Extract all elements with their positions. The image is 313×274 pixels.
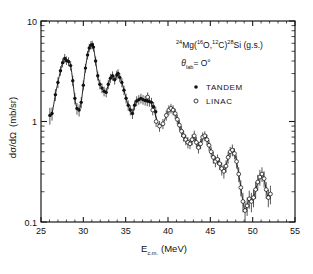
x-tick-label: 35 [121, 226, 131, 236]
data-point-open [222, 169, 226, 173]
data-point-open [262, 177, 266, 181]
x-tick-label: 30 [78, 226, 88, 236]
data-point-filled [54, 93, 57, 96]
angle-annotation: θlab= O° [181, 58, 210, 70]
data-point-filled [82, 83, 85, 86]
data-point-filled [100, 86, 103, 89]
data-point-filled [67, 60, 70, 63]
data-point-open [173, 112, 177, 116]
data-point-open [209, 150, 213, 154]
data-point-open [207, 143, 211, 147]
data-point-filled [122, 88, 125, 91]
data-point-open [243, 209, 247, 213]
data-point-open [192, 134, 196, 138]
data-point-filled [69, 64, 72, 67]
x-tick-label: 40 [163, 226, 173, 236]
legend-label-tandem: TANDEM [206, 83, 243, 92]
data-point-filled [124, 97, 127, 100]
data-point-open [254, 188, 258, 192]
data-point-filled [111, 74, 114, 77]
data-point-open [239, 186, 243, 190]
data-point-open [154, 120, 158, 124]
data-point-open [180, 129, 184, 133]
figure-panel: 253035404550550.1110Ec.m.(MeV)dσ/dΩ(mb/s… [0, 0, 313, 274]
series-tandem [48, 41, 157, 125]
data-point-open [182, 134, 186, 138]
data-point-open [233, 152, 237, 156]
data-point-filled [80, 101, 83, 104]
data-point-filled [131, 112, 134, 115]
data-point-open [194, 140, 198, 144]
reaction-annotation: 24Mg(16O,12C)28Si (g.s.) [176, 39, 263, 50]
data-point-filled [71, 79, 74, 82]
data-point-filled [61, 61, 64, 64]
data-point-filled [98, 83, 101, 86]
data-point-open [256, 180, 260, 184]
data-point-filled [84, 66, 87, 69]
data-point-filled [86, 53, 89, 56]
data-point-filled [127, 104, 130, 107]
data-point-filled [92, 45, 95, 48]
data-point-open [224, 164, 228, 168]
data-point-open [260, 172, 264, 176]
x-axis-label: Ec.m.(MeV) [141, 243, 187, 256]
legend-marker-open [194, 99, 198, 103]
x-tick-label: 50 [248, 226, 258, 236]
data-point-open [241, 200, 245, 204]
data-point-filled [77, 108, 80, 111]
data-point-open [218, 162, 222, 166]
data-point-open [203, 134, 207, 138]
y-tick-label: 1 [32, 117, 37, 127]
data-point-open [226, 155, 230, 159]
data-point-open [252, 196, 256, 200]
data-point-filled [73, 97, 76, 100]
x-tick-label: 45 [205, 226, 215, 236]
data-point-filled [96, 74, 99, 77]
data-point-open [188, 142, 192, 146]
data-point-filled [118, 76, 121, 79]
legend-label-linac: LINAC [206, 97, 233, 106]
data-point-open [190, 138, 194, 142]
data-point-filled [133, 104, 136, 107]
series-linac [146, 92, 273, 222]
data-point-filled [56, 81, 59, 84]
y-axis-label: dσ/dΩ(mb/sr) [7, 97, 18, 158]
data-point-filled [116, 72, 119, 75]
data-point-open [237, 172, 241, 176]
data-point-open [178, 123, 182, 127]
data-point-open [245, 204, 249, 208]
data-point-filled [120, 81, 123, 84]
data-point-filled [107, 83, 110, 86]
data-point-filled [59, 69, 62, 72]
y-tick-label: 10 [27, 17, 37, 27]
data-point-open [158, 124, 162, 128]
data-point-open [205, 138, 209, 142]
data-point-open [230, 148, 234, 152]
data-point-filled [50, 112, 53, 115]
y-tick-label: 0.1 [24, 218, 37, 228]
data-point-open [250, 200, 254, 204]
data-point-open [171, 108, 175, 112]
data-point-filled [104, 91, 107, 94]
data-point-open [175, 117, 179, 121]
data-point-open [264, 188, 268, 192]
data-point-filled [150, 101, 153, 104]
data-point-open [269, 192, 273, 196]
x-tick-label: 25 [36, 226, 46, 236]
data-point-open [164, 114, 168, 118]
data-point-filled [94, 59, 97, 62]
data-point-open [161, 122, 165, 126]
data-point-filled [129, 108, 132, 111]
plot-frame [41, 21, 295, 222]
data-point-open [266, 196, 270, 200]
data-point-filled [113, 78, 116, 81]
data-point-open [146, 95, 150, 99]
x-tick-label: 55 [290, 226, 300, 236]
data-point-open [199, 142, 203, 146]
data-point-open [235, 160, 239, 164]
data-point-open [216, 157, 220, 161]
data-point-open [151, 108, 155, 112]
data-point-open [211, 155, 215, 159]
data-point-open [197, 146, 201, 150]
excitation-function-chart: 253035404550550.1110Ec.m.(MeV)dσ/dΩ(mb/s… [0, 0, 313, 274]
